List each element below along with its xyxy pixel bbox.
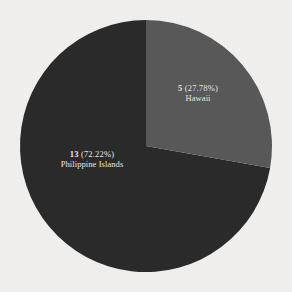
- pie-slice-hawaii[interactable]: [146, 20, 272, 168]
- pie-chart-canvas: [0, 0, 292, 292]
- pie-chart: 5 (27.78%) Hawaii 13 (72.22%) Philippine…: [0, 0, 292, 292]
